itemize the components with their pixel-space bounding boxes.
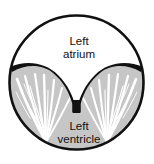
left-ventricle-label-line2: ventricle (58, 133, 101, 145)
heart-cross-section-diagram: Left atrium Left ventricle (0, 0, 154, 164)
left-ventricle-label-line1: Left (69, 120, 89, 132)
left-atrium-label-line1: Left (69, 35, 89, 47)
heart-diagram-svg: Left atrium Left ventricle (0, 0, 154, 164)
valve-coaptation-point (73, 100, 81, 113)
left-atrium-label-line2: atrium (63, 48, 95, 60)
